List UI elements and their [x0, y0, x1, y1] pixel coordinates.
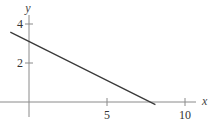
- series-group: [10, 32, 155, 105]
- x-tick-label-10: 10: [179, 108, 191, 122]
- y-tick-label-2: 2: [17, 56, 23, 70]
- series-line-0: [10, 32, 155, 105]
- y-ticks: 24: [17, 17, 33, 70]
- x-axis-label: x: [201, 94, 208, 108]
- chart: 510 24 x y: [0, 0, 215, 131]
- x-tick-label-5: 5: [104, 108, 110, 122]
- y-tick-label-4: 4: [17, 17, 23, 31]
- y-axis-label: y: [24, 1, 31, 15]
